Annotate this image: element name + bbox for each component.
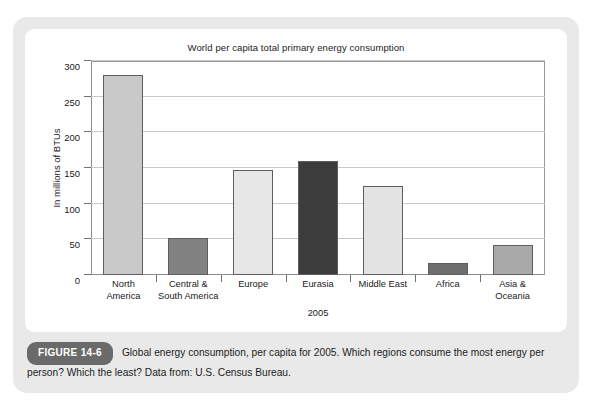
x-axis-category-label-line: North xyxy=(91,279,156,291)
bar[interactable] xyxy=(298,161,338,275)
x-axis-category-label-line: America xyxy=(91,291,156,303)
bar-slot xyxy=(350,61,415,275)
bar-series xyxy=(91,61,545,275)
y-axis-tick xyxy=(84,238,91,239)
x-axis-category-labels: NorthAmericaCentral &South AmericaEurope… xyxy=(91,279,545,302)
x-axis-category-label: Africa xyxy=(415,279,480,302)
bar[interactable] xyxy=(168,238,208,275)
y-axis-tick xyxy=(84,203,91,204)
chart-title: World per capita total primary energy co… xyxy=(25,42,567,53)
bar-slot xyxy=(156,61,221,275)
x-axis-category-label-line: Asia & xyxy=(480,279,545,291)
bar-slot xyxy=(221,61,286,275)
x-axis-category-label: Eurasia xyxy=(286,279,351,302)
figure-card: World per capita total primary energy co… xyxy=(13,17,579,393)
bar-slot xyxy=(480,61,545,275)
bar-slot xyxy=(91,61,156,275)
plot-area-wrapper: 050100150200250300 xyxy=(91,61,545,275)
chart-panel: World per capita total primary energy co… xyxy=(25,29,567,332)
bar-slot xyxy=(286,61,351,275)
bar-slot xyxy=(415,61,480,275)
x-axis-category-label-line: Europe xyxy=(221,279,286,291)
y-axis-tick xyxy=(84,167,91,168)
figure-caption: FIGURE 14-6Global energy consumption, pe… xyxy=(27,342,565,381)
x-axis-category-label-line: Oceania xyxy=(480,291,545,303)
x-axis-category-label: NorthAmerica xyxy=(91,279,156,302)
x-axis-category-label: Asia &Oceania xyxy=(480,279,545,302)
bar[interactable] xyxy=(428,263,468,275)
x-axis-category-label-line: Eurasia xyxy=(286,279,351,291)
x-axis-category-label: Central &South America xyxy=(156,279,221,302)
x-axis-category-label: Europe xyxy=(221,279,286,302)
bar[interactable] xyxy=(233,170,273,275)
x-axis-title: 2005 xyxy=(91,308,545,318)
figure-number-badge: FIGURE 14-6 xyxy=(27,342,113,365)
x-axis-category-label-line: Africa xyxy=(415,279,480,291)
y-axis-tick xyxy=(84,60,91,61)
y-axis-tick xyxy=(84,274,91,275)
bar[interactable] xyxy=(363,186,403,275)
x-axis-category-label: Middle East xyxy=(350,279,415,302)
x-axis-category-label-line: South America xyxy=(156,291,221,303)
x-axis-category-label-line: Central & xyxy=(156,279,221,291)
bar[interactable] xyxy=(103,75,143,275)
y-axis-tick xyxy=(84,131,91,132)
bar[interactable] xyxy=(493,245,533,275)
y-axis-title: In millions of BTUs xyxy=(51,61,65,275)
x-axis-category-label-line: Middle East xyxy=(350,279,415,291)
y-axis-tick xyxy=(84,96,91,97)
